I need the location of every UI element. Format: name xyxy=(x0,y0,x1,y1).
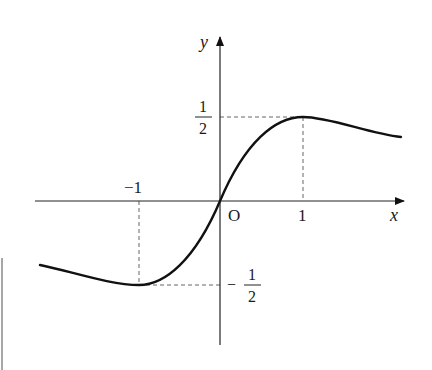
y-tick-half: 1 2 xyxy=(195,98,212,137)
x-tick-neg-one: −1 xyxy=(124,178,142,197)
x-axis-label: x xyxy=(389,205,398,225)
x-tick-one: 1 xyxy=(298,206,307,225)
svg-text:−: − xyxy=(227,276,236,293)
function-graph: y x O −1 1 1 2 − 1 2 xyxy=(0,0,432,370)
y-tick-neg-half: − 1 2 xyxy=(227,266,261,305)
svg-text:2: 2 xyxy=(199,120,207,137)
svg-text:1: 1 xyxy=(199,98,207,115)
origin-label: O xyxy=(228,206,240,225)
y-axis-label: y xyxy=(198,32,208,52)
svg-text:1: 1 xyxy=(248,266,256,283)
svg-text:2: 2 xyxy=(248,288,256,305)
